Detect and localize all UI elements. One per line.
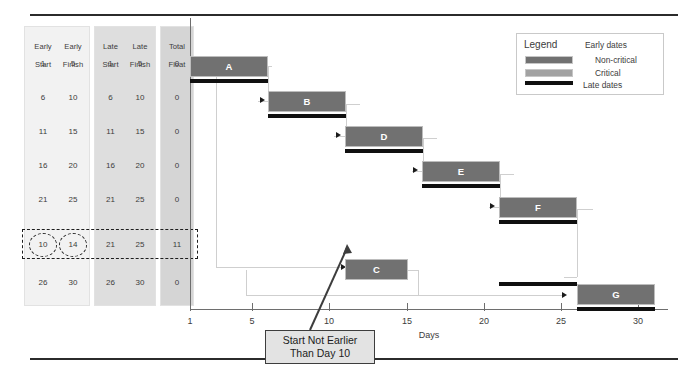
gantt-chart-figure: Early Start Early Finish Late Start Late… [0,0,678,378]
callout-note-start-not-earlier: Start Not Earlier Than Day 10 [265,330,375,364]
callout-line-1: Start Not Earlier [283,334,358,347]
callout-leader-line [0,0,678,378]
callout-line-2: Than Day 10 [290,347,350,360]
